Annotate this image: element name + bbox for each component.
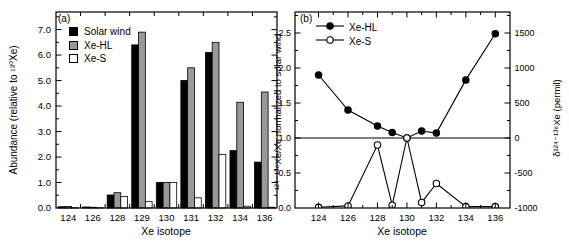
legend-item-xe-s-line: Xe-S bbox=[316, 34, 377, 48]
panel-a-y-tick-label: 2.0 bbox=[38, 151, 51, 162]
panel-b-x-axis-label: Xe isotope bbox=[377, 225, 427, 237]
legend-item-xe-s: Xe-S bbox=[69, 52, 131, 66]
panel-a-y-tick-label: 7.0 bbox=[38, 24, 51, 35]
panel-b-right-y-tick-label: 500 bbox=[515, 98, 530, 108]
legend-label-xe-hl: Xe-HL bbox=[84, 40, 112, 51]
panel-b-right-y-tick-label: 1000 bbox=[515, 63, 535, 73]
panel-b-label: (b) bbox=[300, 13, 312, 24]
panel-a-x-tick-label: 129 bbox=[134, 212, 150, 223]
xe-s-marker-icon bbox=[316, 32, 344, 50]
panel-b-x-tick-label: 130 bbox=[399, 212, 415, 223]
xe-hl-swatch-icon bbox=[69, 41, 78, 50]
panel-a-y-tick-label: 3.0 bbox=[38, 126, 51, 137]
panel-b-x-tick-label: 134 bbox=[458, 212, 474, 223]
legend-label-xe-s: Xe-S bbox=[84, 53, 106, 64]
legend-item-solar-wind: Solar wind bbox=[69, 25, 131, 39]
legend-label-xe-hl-line: Xe-HL bbox=[349, 22, 377, 33]
bars-xe-s bbox=[72, 154, 275, 208]
panel-a-x-tick-label: 124 bbox=[60, 212, 76, 223]
bars-solar-wind bbox=[58, 45, 261, 208]
panel-b-left-y-tick-label: 0.0 bbox=[278, 203, 291, 213]
panel-b-x-tick-label: 128 bbox=[370, 212, 386, 223]
panel-b-x-tick-label: 132 bbox=[428, 212, 444, 223]
panel-a-y-tick-label: 1.0 bbox=[38, 177, 51, 188]
panel-a-y-tick-label: 0.0 bbox=[38, 202, 51, 213]
panel-a-y-axis-label: Abundance (relative to ¹³⁰Xe) bbox=[8, 45, 19, 174]
panel-a-legend: Solar wind Xe-HL Xe-S bbox=[69, 25, 131, 66]
panel-a-y-tick-label: 6.0 bbox=[38, 49, 51, 60]
panel-b-x-tick-label: 136 bbox=[487, 212, 503, 223]
panel-b-x-tick-label: 124 bbox=[311, 212, 327, 223]
panel-a-x-tick-label: 128 bbox=[109, 212, 125, 223]
panel-b-legend: Xe-HL Xe-S bbox=[316, 20, 377, 48]
panel-b-right-y-tick-label: 0 bbox=[515, 133, 520, 143]
legend-item-xe-hl: Xe-HL bbox=[69, 39, 131, 53]
legend-label-xe-s-line: Xe-S bbox=[349, 36, 371, 47]
series-xe-s bbox=[315, 135, 498, 211]
panel-a-x-tick-label: 126 bbox=[85, 212, 101, 223]
xe-s-swatch-icon bbox=[69, 54, 78, 63]
legend-label-solar-wind: Solar wind bbox=[84, 26, 131, 37]
panel-a-x-tick-label: 130 bbox=[159, 212, 175, 223]
panel-a-x-tick-label: 134 bbox=[232, 212, 248, 223]
panel-b-left-y-axis-label: ¹²⁴⁻¹³⁶Xe/Xe normalized to solar wind bbox=[272, 34, 283, 191]
panel-a-x-tick-label: 136 bbox=[257, 212, 273, 223]
panel-b-x-tick-label: 126 bbox=[340, 212, 356, 223]
panel-a-label: (a) bbox=[58, 13, 70, 24]
panel-a-y-tick-label: 4.0 bbox=[38, 100, 51, 111]
panel-a-x-axis-label: Xe isotope bbox=[141, 225, 191, 237]
panel-a-x-tick-label: 132 bbox=[208, 212, 224, 223]
panel-a-x-tick-label: 131 bbox=[183, 212, 199, 223]
xenon-isotope-figure: 0.01.02.03.04.05.06.07.01241261281291301… bbox=[0, 0, 569, 247]
panel-b-right-y-tick-label: -500 bbox=[515, 168, 533, 178]
panel-b-right-y-tick-label: -1000 bbox=[515, 203, 538, 213]
panel-a-y-tick-label: 5.0 bbox=[38, 75, 51, 86]
panel-b-right-y-axis-label: δ¹²⁴⁻¹³⁶Xe (permil) bbox=[551, 79, 562, 156]
solar-wind-swatch-icon bbox=[69, 27, 78, 36]
panel-b-right-y-tick-label: 1500 bbox=[515, 28, 535, 38]
